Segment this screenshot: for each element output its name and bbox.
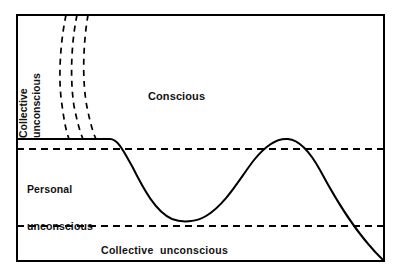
label-collective-unconscious-side-line1: Collective bbox=[17, 88, 29, 138]
label-personal-unconscious-line1: Personal bbox=[27, 183, 93, 195]
label-collective-unconscious-side: Collective unconscious bbox=[16, 42, 56, 138]
label-conscious: Conscious bbox=[148, 90, 205, 103]
psyche-diagram: Conscious Personal unconscious Collectiv… bbox=[0, 0, 401, 278]
label-personal-unconscious: Personal unconscious bbox=[27, 158, 93, 257]
label-collective-unconscious-side-line2: unconscious bbox=[30, 73, 42, 138]
label-collective-unconscious-bottom: Collective unconscious bbox=[101, 244, 228, 256]
label-personal-unconscious-line2: unconscious bbox=[27, 220, 93, 232]
